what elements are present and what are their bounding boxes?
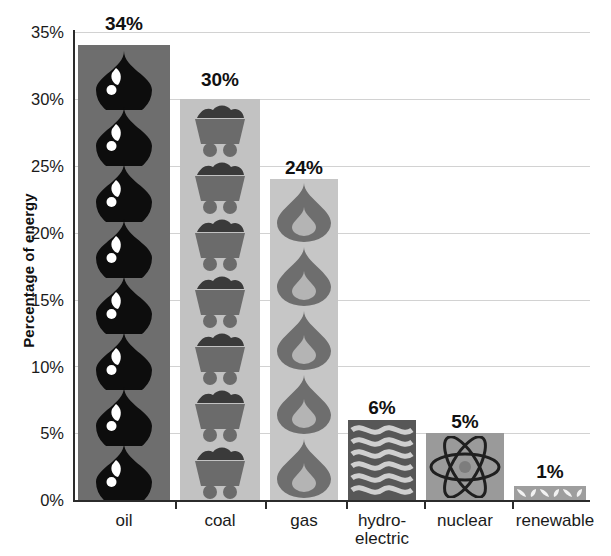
wind-blade-icon — [514, 486, 586, 500]
y-tick-label: 10% — [20, 359, 64, 376]
x-tick — [512, 502, 514, 509]
x-label-hydro-electric: hydro- electric — [340, 512, 424, 548]
bar-nuclear[interactable] — [426, 433, 504, 500]
bar-renewable[interactable] — [514, 486, 586, 500]
gas-flame-icon — [275, 244, 333, 308]
x-tick — [175, 502, 177, 509]
value-label-nuclear: 5% — [426, 412, 504, 431]
gas-icon-stack — [270, 180, 338, 500]
coal-cart-icon — [189, 329, 251, 386]
oil-drop-icon — [95, 220, 153, 276]
value-label-renewable: 1% — [514, 462, 586, 481]
coal-cart-icon — [189, 215, 251, 272]
y-axis-tick-labels: 35% 30% 25% 20% 15% 10% 5% 0% — [0, 0, 64, 556]
y-tick-label: 0% — [20, 492, 64, 509]
bar-gas[interactable] — [270, 179, 338, 500]
water-wave-icon — [348, 420, 416, 500]
gas-flame-icon — [275, 372, 333, 436]
y-tick-label: 15% — [20, 292, 64, 309]
oil-drop-icon — [95, 332, 153, 388]
y-tick-label: 20% — [20, 225, 64, 242]
oil-drop-icon — [95, 444, 153, 500]
coal-cart-icon — [189, 101, 251, 158]
coal-cart-icon — [189, 386, 251, 443]
y-tick-label: 30% — [20, 91, 64, 108]
y-tick-label: 35% — [20, 24, 64, 41]
oil-drop-icon — [95, 52, 153, 108]
x-label-gas: gas — [270, 512, 338, 530]
bar-hydro-electric[interactable] — [348, 420, 416, 500]
value-label-gas: 24% — [270, 158, 338, 177]
coal-cart-icon — [189, 158, 251, 215]
oil-drop-icon — [95, 108, 153, 164]
plot-area — [74, 32, 590, 500]
value-label-oil: 34% — [78, 14, 170, 33]
coal-icon-stack — [180, 101, 260, 500]
gas-flame-icon — [275, 436, 333, 500]
x-label-hydro-line1: hydro- — [358, 511, 406, 530]
x-tick — [424, 502, 426, 509]
y-tick-label: 25% — [20, 158, 64, 175]
y-tick-label: 5% — [20, 425, 64, 442]
x-tick — [265, 502, 267, 509]
gas-flame-icon — [275, 308, 333, 372]
value-label-coal: 30% — [180, 70, 260, 89]
value-label-hydro-electric: 6% — [348, 398, 416, 417]
oil-icon-stack — [78, 52, 170, 500]
atom-icon — [426, 433, 504, 500]
coal-cart-icon — [189, 443, 251, 500]
x-label-oil: oil — [78, 512, 170, 530]
x-label-coal: coal — [180, 512, 260, 530]
gas-flame-icon — [275, 180, 333, 244]
bar-coal[interactable] — [180, 99, 260, 500]
oil-drop-icon — [95, 388, 153, 444]
x-label-hydro-line2: electric — [355, 529, 409, 548]
oil-drop-icon — [95, 276, 153, 332]
bar-oil[interactable] — [78, 45, 170, 500]
energy-percentage-bar-chart: Percentage of energy 35% 30% 25% 20% 15%… — [0, 0, 611, 556]
x-label-renewable: renewable — [505, 512, 605, 530]
coal-cart-icon — [189, 272, 251, 329]
x-tick — [346, 502, 348, 509]
x-label-nuclear: nuclear — [422, 512, 508, 530]
y-axis-line — [73, 30, 75, 502]
oil-drop-icon — [95, 164, 153, 220]
